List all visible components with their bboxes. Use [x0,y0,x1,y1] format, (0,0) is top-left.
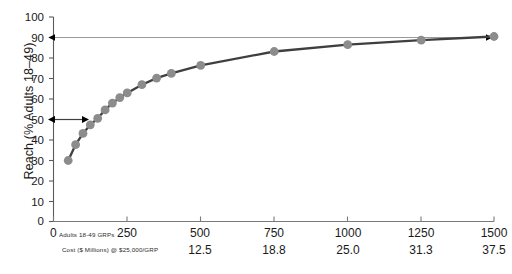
x-origin-label: 0 [50,226,57,240]
reach-curve-markers [64,32,499,165]
data-point [123,89,132,98]
reach-curve-line [68,37,494,161]
data-point [417,36,426,45]
cost-tick-label: 12.5 [180,243,220,257]
y-axis-ticks [49,17,54,222]
cost-tick-label: 25.0 [327,243,369,257]
y-tick-label: 20 [10,175,44,187]
x-tick-label: 1250 [400,226,442,240]
cost-tick-label: 18.8 [254,243,294,257]
x-tick-label: 750 [254,226,294,240]
cost-tick-label: 31.3 [400,243,442,257]
x-tick-label: 250 [107,226,147,240]
data-point [64,156,73,165]
cost-tick-label: 37.5 [473,243,512,257]
y-tick-label: 90 [10,32,44,44]
data-point [138,80,147,89]
data-point [108,99,117,108]
y-tick-label: 10 [10,196,44,208]
x-axis-ticks [54,217,495,222]
data-point [343,40,352,49]
x-tick-label: 500 [180,226,220,240]
data-point [270,47,279,56]
data-point [93,114,102,123]
y-tick-label: 30 [10,155,44,167]
cost-axis-caption: Cost ($ Millions) @ $25,000/GRP [62,246,158,253]
data-point [79,129,88,138]
x-tick-label: 1500 [473,226,512,240]
data-point [71,140,80,149]
data-point [115,93,124,102]
x-tick-label: 1000 [327,226,369,240]
data-point [101,106,110,115]
data-point [196,61,205,70]
data-point [86,120,95,129]
y-tick-label: 60 [10,93,44,105]
data-point [152,74,161,83]
y-tick-label: 80 [10,52,44,64]
y-tick-label: 0 [10,215,44,227]
y-tick-label: 40 [10,134,44,146]
y-tick-label: 100 [10,11,44,23]
data-point [490,32,499,41]
data-point [167,69,176,78]
y-tick-label: 70 [10,73,44,85]
y-tick-label: 50 [10,114,44,126]
